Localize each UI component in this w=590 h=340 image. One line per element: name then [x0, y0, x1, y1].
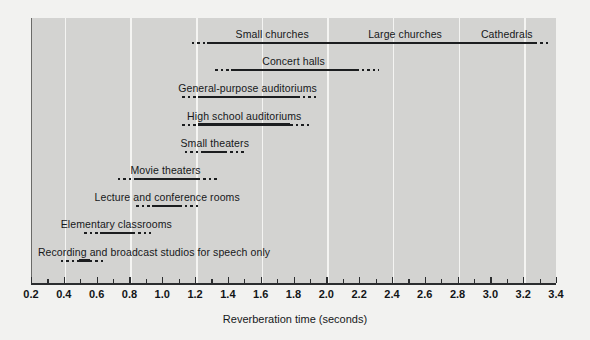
- x-tick-major: [31, 277, 32, 283]
- x-tick-minor: [310, 279, 311, 283]
- range-label: Cathedrals: [481, 28, 533, 40]
- x-tick-minor: [277, 279, 278, 283]
- range-solid: [198, 96, 296, 98]
- range-label: Lecture and conference rooms: [95, 191, 240, 203]
- x-tick-major: [523, 277, 524, 283]
- reverberation-time-chart: Reverberation time (seconds) Small churc…: [0, 0, 590, 340]
- x-tick-minor: [441, 279, 442, 283]
- range-label: Small churches: [236, 28, 309, 40]
- range-solid: [100, 232, 133, 234]
- range-dotted-left: [136, 205, 152, 207]
- x-tick-label: 2.0: [319, 288, 334, 300]
- range-solid: [207, 42, 535, 44]
- range-row: General-purpose auditoriums: [0, 76, 590, 102]
- range-label: Large churches: [368, 28, 442, 40]
- x-tick-label: 2.4: [384, 288, 399, 300]
- range-label: Concert halls: [262, 55, 325, 67]
- range-dotted-right: [198, 178, 218, 180]
- x-tick-label: 3.2: [516, 288, 531, 300]
- range-label: Elementary classrooms: [61, 218, 172, 230]
- range-solid: [134, 178, 198, 180]
- x-tick-major: [162, 277, 163, 283]
- x-tick-minor: [80, 279, 81, 283]
- x-tick-minor: [343, 279, 344, 283]
- range-label: High school auditoriums: [187, 110, 301, 122]
- range-solid: [79, 259, 90, 261]
- x-tick-major: [261, 277, 262, 283]
- range-dotted-left: [118, 178, 134, 180]
- x-tick-label: 0.6: [89, 288, 104, 300]
- range-dotted-left: [61, 260, 79, 262]
- range-row: Recording and broadcast studios for spee…: [0, 240, 590, 266]
- x-tick-minor: [376, 279, 377, 283]
- x-tick-minor: [507, 279, 508, 283]
- x-tick-major: [490, 277, 491, 283]
- x-tick-minor: [146, 279, 147, 283]
- x-tick-label: 2.6: [417, 288, 432, 300]
- x-tick-label: 1.2: [187, 288, 202, 300]
- range-dotted-right: [179, 205, 199, 207]
- range-dotted-left: [182, 124, 198, 126]
- x-tick-minor: [113, 279, 114, 283]
- range-label: Recording and broadcast studios for spee…: [38, 246, 270, 258]
- range-row: Movie theaters: [0, 158, 590, 184]
- x-tick-major: [458, 277, 459, 283]
- x-tick-label: 1.8: [286, 288, 301, 300]
- x-tick-label: 3.4: [548, 288, 563, 300]
- x-tick-minor: [244, 279, 245, 283]
- range-dotted-left: [215, 69, 231, 71]
- range-solid: [152, 205, 178, 207]
- range-dotted-left: [84, 232, 100, 234]
- range-label: Small theaters: [180, 137, 249, 149]
- range-row: Small churchesLarge churchesCathedrals: [0, 22, 590, 48]
- range-label: General-purpose auditoriums: [178, 82, 317, 94]
- x-tick-major: [425, 277, 426, 283]
- x-axis-title: Reverberation time (seconds): [0, 313, 590, 325]
- x-tick-minor: [540, 279, 541, 283]
- x-tick-label: 2.2: [351, 288, 366, 300]
- x-tick-label: 0.8: [122, 288, 137, 300]
- range-row: Elementary classrooms: [0, 212, 590, 238]
- range-dotted-right: [225, 151, 245, 153]
- x-tick-label: 0.2: [23, 288, 38, 300]
- range-row: High school auditoriums: [0, 104, 590, 130]
- x-tick-minor: [474, 279, 475, 283]
- range-row: Lecture and conference rooms: [0, 185, 590, 211]
- x-tick-label: 3.0: [483, 288, 498, 300]
- range-row: Small theaters: [0, 131, 590, 157]
- x-tick-label: 1.0: [155, 288, 170, 300]
- x-tick-major: [195, 277, 196, 283]
- x-tick-label: 0.4: [56, 288, 71, 300]
- x-tick-major: [294, 277, 295, 283]
- x-tick-major: [64, 277, 65, 283]
- x-tick-minor: [211, 279, 212, 283]
- range-label: Movie theaters: [130, 164, 200, 176]
- x-tick-label: 1.4: [220, 288, 235, 300]
- range-dotted-right: [297, 96, 318, 98]
- x-tick-minor: [47, 279, 48, 283]
- range-solid: [231, 69, 356, 71]
- range-dotted-left: [192, 42, 207, 44]
- x-tick-major: [326, 277, 327, 283]
- range-dotted-right: [535, 42, 551, 44]
- range-dotted-left: [185, 151, 201, 153]
- range-dotted-right: [290, 124, 310, 126]
- x-tick-label: 2.8: [450, 288, 465, 300]
- x-tick-label: 1.6: [253, 288, 268, 300]
- x-tick-major: [392, 277, 393, 283]
- range-solid: [198, 123, 290, 125]
- range-dotted-right: [90, 260, 103, 262]
- x-axis-line: [31, 283, 556, 285]
- x-tick-major: [129, 277, 130, 283]
- range-dotted-right: [356, 69, 379, 71]
- range-dotted-right: [133, 232, 151, 234]
- x-tick-minor: [179, 279, 180, 283]
- range-solid: [202, 151, 225, 153]
- x-tick-major: [359, 277, 360, 283]
- x-tick-major: [97, 277, 98, 283]
- x-tick-major: [556, 277, 557, 283]
- range-row: Concert halls: [0, 49, 590, 75]
- x-tick-minor: [408, 279, 409, 283]
- range-dotted-left: [182, 96, 198, 98]
- x-tick-major: [228, 277, 229, 283]
